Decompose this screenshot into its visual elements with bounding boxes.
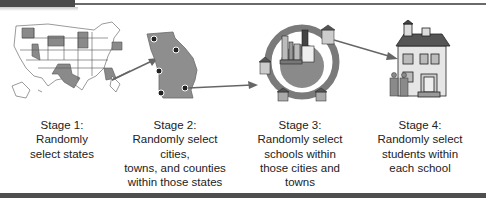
stage-1-title: Stage 1: [22, 118, 102, 132]
school-students-icon [386, 20, 456, 100]
stage-2-line-1: Randomly select [115, 132, 235, 146]
stage-2-line-2: cities, [115, 147, 235, 161]
stage-3-line-2: schools within [250, 147, 350, 161]
stage-3-line-1: Randomly select [250, 132, 350, 146]
stage-4-label: Stage 4: Randomly select students within… [370, 118, 470, 175]
stage-2-line-4: within those states [115, 175, 235, 189]
header-tab [0, 0, 75, 7]
header-shadow [0, 7, 78, 11]
stage-3-line-4: towns [250, 175, 350, 189]
stage-2-line-3: towns, and counties [115, 161, 235, 175]
stage-4-title: Stage 4: [370, 118, 470, 132]
arrow-stage2-to-stage3 [188, 80, 260, 94]
footer-bar [0, 193, 486, 198]
stage-3-title: Stage 3: [250, 118, 350, 132]
header-rule [75, 3, 486, 5]
stage-1-line-1: Randomly [22, 132, 102, 146]
stage-1-label: Stage 1: Randomly select states [22, 118, 102, 161]
stage-3-label: Stage 3: Randomly select schools within … [250, 118, 350, 189]
stage-4-line-2: students within [370, 147, 470, 161]
stage-3-line-3: those cities and [250, 161, 350, 175]
stage-2-label: Stage 2: Randomly select cities, towns, … [115, 118, 235, 189]
stage-4-line-3: each school [370, 161, 470, 175]
stage-2-title: Stage 2: [115, 118, 235, 132]
stage-4-line-1: Randomly select [370, 132, 470, 146]
stage-1-line-2: select states [22, 147, 102, 161]
